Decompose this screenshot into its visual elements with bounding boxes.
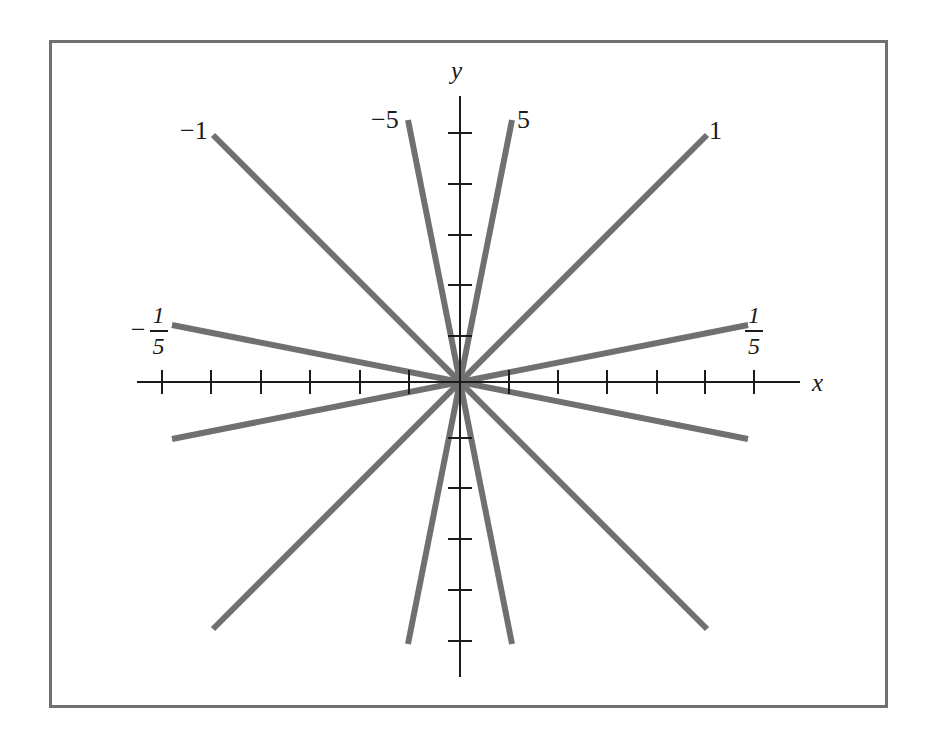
fraction-denominator: 5 <box>746 334 762 359</box>
y-axis-label: y <box>451 58 462 83</box>
x-axis-label: x <box>812 370 823 395</box>
coordinate-plane-svg <box>0 0 929 746</box>
fraction-bar <box>150 330 168 332</box>
fraction-minus-sign: − <box>129 317 147 343</box>
fraction-stack: 1 5 <box>745 303 763 359</box>
fraction-stack: 1 5 <box>150 303 168 359</box>
slope-label-neg1: −1 <box>180 118 208 144</box>
fraction-bar <box>745 330 763 332</box>
fraction-one-fifth: 1 5 <box>745 303 763 359</box>
slope-label-neg5: −5 <box>371 107 399 133</box>
slope-label-5: 5 <box>517 107 530 133</box>
slope-label-one-fifth: 1 5 <box>745 303 763 359</box>
fraction-numerator: 1 <box>151 303 167 328</box>
fraction-neg-one-fifth: − 1 5 <box>129 303 168 359</box>
fraction-denominator: 5 <box>151 334 167 359</box>
slope-label-1: 1 <box>709 118 722 144</box>
slope-label-neg-one-fifth: − 1 5 <box>129 303 168 359</box>
fraction-numerator: 1 <box>746 303 762 328</box>
figure-canvas: y x −1 −5 5 1 − 1 5 1 5 <box>0 0 929 746</box>
